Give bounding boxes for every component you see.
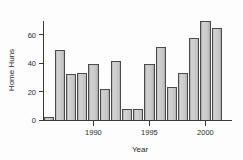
- bar-1987: [55, 50, 64, 120]
- bar-1997: [167, 88, 176, 121]
- x-axis-title: Year: [132, 145, 149, 154]
- bar-2001: [212, 29, 221, 121]
- bar-1990: [89, 65, 98, 121]
- x-tick-label-2000: 2000: [197, 128, 214, 137]
- bar-1995: [145, 65, 154, 121]
- bar-1996: [156, 48, 165, 121]
- bar-2000: [201, 22, 210, 121]
- bar-1989: [78, 73, 87, 120]
- bar-1999: [190, 39, 199, 121]
- bar-1993: [122, 109, 131, 120]
- bar-1988: [66, 75, 75, 121]
- y-tick-label-0: 0: [32, 116, 36, 125]
- y-axis-title: Home Huns: [7, 49, 16, 91]
- chart-canvas: 0204060 199019952000 Home Huns Year: [0, 0, 243, 160]
- bar-1992: [111, 62, 120, 121]
- bars-group: [44, 22, 221, 121]
- x-tick-label-1995: 1995: [141, 128, 158, 137]
- x-tick-label-1990: 1990: [85, 128, 102, 137]
- y-tick-group: 0204060: [28, 31, 44, 126]
- bar-1994: [134, 109, 143, 120]
- y-tick-label-60: 60: [28, 31, 36, 40]
- bar-1998: [178, 73, 187, 120]
- y-tick-label-40: 40: [28, 59, 36, 68]
- x-tick-group: 199019952000: [85, 121, 214, 137]
- bar-chart-figure: 0204060 199019952000 Home Huns Year: [0, 0, 243, 160]
- y-tick-label-20: 20: [28, 88, 36, 97]
- bar-1991: [100, 89, 109, 120]
